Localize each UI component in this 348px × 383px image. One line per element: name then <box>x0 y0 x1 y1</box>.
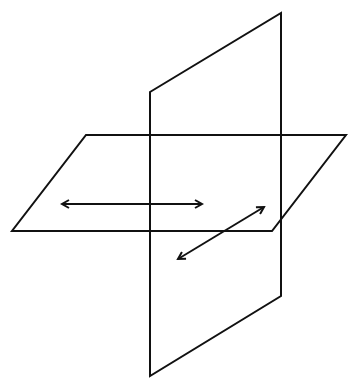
horizontal-plane <box>12 135 346 231</box>
diagonal-double-arrow <box>178 207 264 259</box>
intersecting-planes-diagram <box>0 0 348 383</box>
vertical-plane <box>150 13 281 376</box>
